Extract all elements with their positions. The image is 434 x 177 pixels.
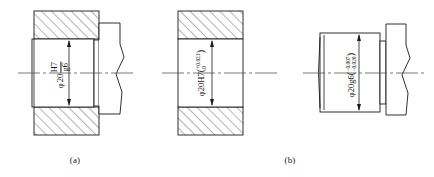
- nominal-size-hole: 20: [197, 83, 206, 92]
- hole-lower-section: [178, 107, 243, 135]
- dimension-text-hole: φ 20 H7 ( +0.021 0 ): [190, 30, 208, 116]
- dimension-text-shaft-b: φ 20 g6 ( −0.007 −0.020 ): [340, 32, 358, 118]
- figure-caption-a: (a): [60, 155, 90, 165]
- housing-upper-section: [34, 11, 99, 39]
- diameter-symbol-hole: φ: [197, 91, 206, 96]
- diameter-symbol-b: φ: [347, 92, 356, 97]
- shaft-step-b: [380, 41, 386, 104]
- shaft-extension-a: [99, 23, 124, 114]
- tolerance-class-hole: H7: [197, 72, 206, 82]
- nominal-size-a: 20: [56, 74, 65, 83]
- drawing-sheet: φ 20 H7 g6 φ 20 H7 ( +0.021 0 ) φ 20 g6: [0, 0, 434, 177]
- nominal-size-b: 20: [347, 84, 356, 93]
- lower-deviation-b: −0.020: [351, 56, 357, 71]
- open-paren-hole: (: [196, 69, 206, 72]
- figure-b-geometry: [303, 24, 425, 115]
- dimension-text-fit-a: φ 20 H7 g6: [49, 37, 70, 113]
- figure-a-geometry: [18, 11, 134, 135]
- deviation-stack-b: −0.007 −0.020: [345, 56, 357, 71]
- shaft-tolerance-a: g6: [60, 62, 70, 73]
- open-paren-b: (: [346, 72, 356, 75]
- fit-fraction-a: H7 g6: [51, 61, 71, 73]
- hole-tolerance-a: H7: [51, 61, 60, 73]
- shaft-head-b: [386, 24, 410, 115]
- diameter-symbol-a: φ: [56, 83, 65, 88]
- close-paren-hole: ): [196, 50, 206, 53]
- figure-hole-geometry: [162, 11, 278, 135]
- deviation-stack-hole: +0.021 0: [195, 54, 207, 69]
- lower-deviation-hole: 0: [201, 66, 207, 69]
- figure-caption-b: (b): [275, 155, 305, 165]
- hole-upper-section: [178, 11, 243, 39]
- tolerance-class-b: g6: [347, 75, 356, 84]
- close-paren-b: ): [346, 53, 356, 56]
